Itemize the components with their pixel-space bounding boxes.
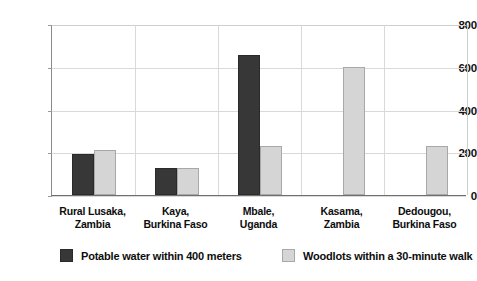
plot-area <box>51 25 466 196</box>
bar-2-series-1[interactable] <box>260 146 282 195</box>
category-label-line2: Zambia <box>51 218 134 231</box>
category-label-line1: Rural Lusaka, <box>59 205 125 217</box>
bar-3-series-1[interactable] <box>343 67 365 195</box>
bar-group-4 <box>384 25 467 195</box>
category-label-line1: Kasama, <box>321 205 363 217</box>
category-label-line1: Mbale, <box>243 205 274 217</box>
bar-group-2 <box>218 25 301 195</box>
category-label-4: Dedougou,Burkina Faso <box>383 205 466 230</box>
chart-legend: Potable water within 400 metersWoodlots … <box>0 249 477 271</box>
bar-group-1 <box>135 25 218 195</box>
legend-item-0[interactable]: Potable water within 400 meters <box>60 249 242 262</box>
category-label-line2: Burkina Faso <box>134 218 217 231</box>
bar-2-series-0[interactable] <box>238 55 260 195</box>
category-label-line1: Kaya, <box>162 205 189 217</box>
bar-4-series-1[interactable] <box>426 146 448 195</box>
bars-wrapper <box>301 25 384 195</box>
dark-swatch <box>60 249 73 262</box>
bars-wrapper <box>384 25 467 195</box>
bars-wrapper <box>135 25 218 195</box>
bar-group-0 <box>52 25 135 195</box>
legend-label-0: Potable water within 400 meters <box>81 250 242 262</box>
category-label-2: Mbale,Uganda <box>217 205 300 230</box>
light-swatch <box>282 249 295 262</box>
bars-wrapper <box>52 25 135 195</box>
legend-label-1: Woodlots within a 30-minute walk <box>303 250 472 262</box>
legend-item-1[interactable]: Woodlots within a 30-minute walk <box>282 249 472 262</box>
category-label-0: Rural Lusaka,Zambia <box>51 205 134 230</box>
bar-0-series-0[interactable] <box>72 154 94 195</box>
bar-1-series-0[interactable] <box>155 168 177 195</box>
category-label-line2: Uganda <box>217 218 300 231</box>
bar-group-3 <box>301 25 384 195</box>
category-label-line1: Dedougou, <box>398 205 451 217</box>
bar-1-series-1[interactable] <box>177 168 199 195</box>
y-tick-mark-0 <box>48 196 52 197</box>
gridline-y-0 <box>52 196 466 197</box>
category-label-1: Kaya,Burkina Faso <box>134 205 217 230</box>
gridline-x-5 <box>467 25 468 195</box>
bar-0-series-1[interactable] <box>94 150 116 195</box>
category-label-3: Kasama,Zambia <box>300 205 383 230</box>
category-label-line2: Zambia <box>300 218 383 231</box>
bar-chart: 0200400600800 Rural Lusaka,ZambiaKaya,Bu… <box>0 0 477 281</box>
bars-wrapper <box>218 25 301 195</box>
category-label-line2: Burkina Faso <box>383 218 466 231</box>
